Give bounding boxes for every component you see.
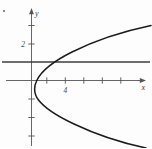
- y-axis-arrow-icon: [29, 8, 34, 14]
- x-axis: [6, 77, 146, 83]
- figure-container: y x 2 4: [0, 0, 152, 148]
- plot-canvas: y x 2 4: [0, 0, 152, 148]
- y-axis: [28, 8, 34, 146]
- corner-speck-mark: [3, 10, 5, 12]
- y-axis-label: y: [34, 9, 39, 18]
- x-tick-label-4: 4: [63, 86, 67, 95]
- x-axis-label: x: [140, 83, 145, 92]
- parabola-curve-series: [35, 26, 151, 149]
- y-tick-label-2: 2: [21, 40, 25, 49]
